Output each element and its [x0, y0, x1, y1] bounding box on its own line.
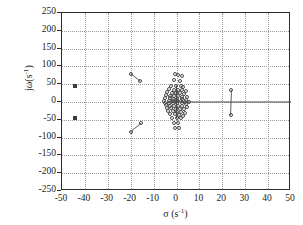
data-point-marker — [73, 116, 77, 120]
y-tick-label: 100 — [23, 60, 56, 70]
data-point-marker — [180, 74, 184, 78]
x-tick-label: 50 — [276, 194, 303, 204]
x-axis-label-text: σ (s — [163, 208, 178, 219]
y-tick-label: -150 — [23, 149, 56, 159]
migrating-pair-right-segment — [231, 90, 232, 115]
y-tick-label: 250 — [23, 7, 56, 17]
root-locus-figure: jω(s-1) σ (s-1) 250200150100500-50-100-1… — [0, 0, 303, 225]
y-tick-label: -200 — [23, 167, 56, 177]
y-tick-label: -100 — [23, 132, 56, 142]
data-point-marker — [129, 72, 133, 76]
y-tick-label: -50 — [23, 114, 56, 124]
data-point-marker — [73, 84, 77, 88]
y-tick-mark — [57, 190, 61, 191]
y-tick-label: 150 — [23, 43, 56, 53]
y-tick-label: 0 — [23, 96, 56, 106]
y-tick-label: 50 — [23, 78, 56, 88]
data-point-marker — [129, 130, 133, 134]
y-tick-label: 200 — [23, 25, 56, 35]
data-point-marker — [229, 113, 233, 117]
x-axis-label: σ (s-1) — [61, 207, 290, 219]
data-point-marker — [178, 79, 182, 83]
x-axis-label-tail: ) — [184, 208, 187, 219]
plot-area — [61, 12, 290, 190]
